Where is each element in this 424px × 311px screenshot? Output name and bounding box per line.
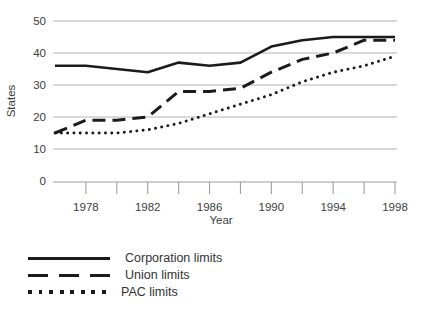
y-tick-label-30: 30 xyxy=(33,79,46,91)
x-tick-label-1982: 1982 xyxy=(135,201,161,213)
legend-label-pac-limits: PAC limits xyxy=(121,284,178,300)
legend-label-union-limits: Union limits xyxy=(125,267,190,283)
legend-label-corporation-limits: Corporation limits xyxy=(125,250,222,266)
series-line-corporation-limits xyxy=(55,37,395,72)
dashed-line-swatch-icon xyxy=(28,274,110,277)
x-tick-label-1978: 1978 xyxy=(73,201,99,213)
y-tick-label-0: 0 xyxy=(40,175,46,187)
chart-legend: Corporation limits Union limits PAC limi… xyxy=(28,250,424,300)
x-tick-label-1990: 1990 xyxy=(259,201,285,213)
x-axis-title: Year xyxy=(209,214,232,226)
legend-item-pac-limits: PAC limits xyxy=(28,284,424,300)
x-tick-label-1986: 1986 xyxy=(197,201,223,213)
y-tick-label-50: 50 xyxy=(33,15,46,27)
y-tick-label-40: 40 xyxy=(33,47,46,59)
x-tick-label-1998: 1998 xyxy=(382,201,408,213)
y-tick-label-20: 20 xyxy=(33,111,46,123)
series-line-union-limits xyxy=(55,40,395,133)
y-tick-label-10: 10 xyxy=(33,143,46,155)
legend-item-union-limits: Union limits xyxy=(28,267,424,283)
solid-line-swatch-icon xyxy=(28,257,110,260)
y-axis-title: States xyxy=(5,84,17,117)
x-tick-label-1994: 1994 xyxy=(320,201,346,213)
line-chart: 01020304050197819821986199019941998State… xyxy=(0,0,424,238)
campaign-limits-figure: 01020304050197819821986199019941998State… xyxy=(0,0,424,311)
dotted-line-swatch-icon xyxy=(28,290,106,294)
legend-item-corporation-limits: Corporation limits xyxy=(28,250,424,266)
